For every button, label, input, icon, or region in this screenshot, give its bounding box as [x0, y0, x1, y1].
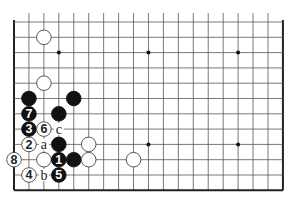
star-point: [236, 51, 240, 55]
white-stone: [37, 152, 52, 167]
white-stone: [81, 152, 96, 167]
point-label-b: b: [40, 168, 47, 183]
white-stone: [126, 152, 141, 167]
star-point: [236, 142, 240, 146]
black-stone: [52, 137, 67, 152]
black-stone: [22, 91, 37, 106]
point-label-a: a: [41, 137, 48, 152]
white-stone-circle: [81, 152, 96, 167]
white-stone-circle: [37, 30, 52, 45]
move-number: 6: [40, 122, 47, 136]
star-point: [146, 142, 150, 146]
black-stone-circle: [52, 137, 67, 152]
black-stone-circle: [52, 107, 67, 122]
move-number: 3: [25, 122, 32, 136]
go-board: cab 73628145: [0, 0, 292, 203]
white-stone-2: 2: [22, 137, 37, 152]
black-stone-5: 5: [52, 168, 67, 183]
white-stone: [81, 137, 96, 152]
white-stone-6: 6: [37, 122, 52, 137]
black-stone-7: 7: [22, 107, 37, 122]
move-number: 5: [55, 168, 62, 182]
white-stone-4: 4: [22, 168, 37, 183]
black-stone-3: 3: [22, 122, 37, 137]
move-number: 1: [55, 153, 62, 167]
star-point: [146, 51, 150, 55]
white-stone: [37, 30, 52, 45]
white-stone-8: 8: [7, 152, 22, 167]
black-stone-circle: [66, 91, 81, 106]
black-stone-circle: [22, 91, 37, 106]
white-stone-circle: [37, 76, 52, 91]
white-stone: [37, 76, 52, 91]
move-number: 8: [11, 153, 18, 167]
move-number: 4: [25, 168, 32, 182]
move-number: 7: [25, 107, 32, 121]
black-stone: [52, 107, 67, 122]
move-number: 2: [25, 138, 32, 152]
star-point: [57, 51, 61, 55]
black-stone: [66, 91, 81, 106]
white-stone-circle: [81, 137, 96, 152]
black-stone-1: 1: [52, 152, 67, 167]
point-label-c: c: [56, 122, 62, 137]
white-stone-circle: [37, 152, 52, 167]
black-stone: [66, 152, 81, 167]
black-stone-circle: [66, 152, 81, 167]
white-stone-circle: [126, 152, 141, 167]
